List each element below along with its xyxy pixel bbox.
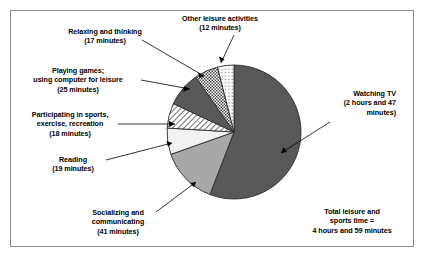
total-leisure-time-annotation: Total leisure and sports time = 4 hours … bbox=[300, 207, 404, 235]
total-line2: sports time = bbox=[300, 216, 404, 225]
callout-reading-line2: (19 minutes) bbox=[38, 164, 108, 173]
callout-watching-tv: Watching TV (2 hours and 47 minutes) bbox=[314, 89, 396, 117]
callout-other-leisure-line1: Other leisure activities bbox=[168, 14, 272, 23]
callout-relaxing-line2: (17 minutes) bbox=[44, 36, 166, 45]
callout-socializing-line3: (41 minutes) bbox=[76, 227, 160, 236]
total-line3: 4 hours and 59 minutes bbox=[300, 226, 404, 235]
callout-playing-games-line1: Playing games; bbox=[15, 66, 141, 75]
callout-socializing-and-communicating: Socializing and communicating (41 minute… bbox=[76, 208, 160, 236]
callout-reading: Reading (19 minutes) bbox=[38, 155, 108, 174]
callout-other-leisure-line2: (12 minutes) bbox=[168, 23, 272, 32]
callout-relaxing-and-thinking: Relaxing and thinking (17 minutes) bbox=[44, 27, 166, 46]
callout-other-leisure-activities: Other leisure activities (12 minutes) bbox=[168, 14, 272, 33]
callout-participating-line1: Participating in sports, bbox=[20, 110, 120, 119]
callout-playing-games: Playing games; using computer for leisur… bbox=[15, 66, 141, 94]
callout-participating-line2: exercise, recreation bbox=[20, 119, 120, 128]
callout-participating-in-sports: Participating in sports, exercise, recre… bbox=[20, 110, 120, 138]
callout-socializing-line1: Socializing and bbox=[76, 208, 160, 217]
total-line1: Total leisure and bbox=[300, 207, 404, 216]
callout-participating-line3: (18 minutes) bbox=[20, 129, 120, 138]
callout-playing-games-line2: using computer for leisure bbox=[15, 75, 141, 84]
callout-watching-tv-line3: minutes) bbox=[314, 108, 396, 117]
callout-socializing-line2: communicating bbox=[76, 217, 160, 226]
callout-playing-games-line3: (25 minutes) bbox=[15, 85, 141, 94]
callout-watching-tv-line2: (2 hours and 47 bbox=[314, 98, 396, 107]
pie-chart-figure: Relaxing and thinking (17 minutes) Other… bbox=[0, 0, 427, 267]
callout-reading-line1: Reading bbox=[38, 155, 108, 164]
callout-watching-tv-line1: Watching TV bbox=[314, 89, 396, 98]
callout-relaxing-line1: Relaxing and thinking bbox=[44, 27, 166, 36]
